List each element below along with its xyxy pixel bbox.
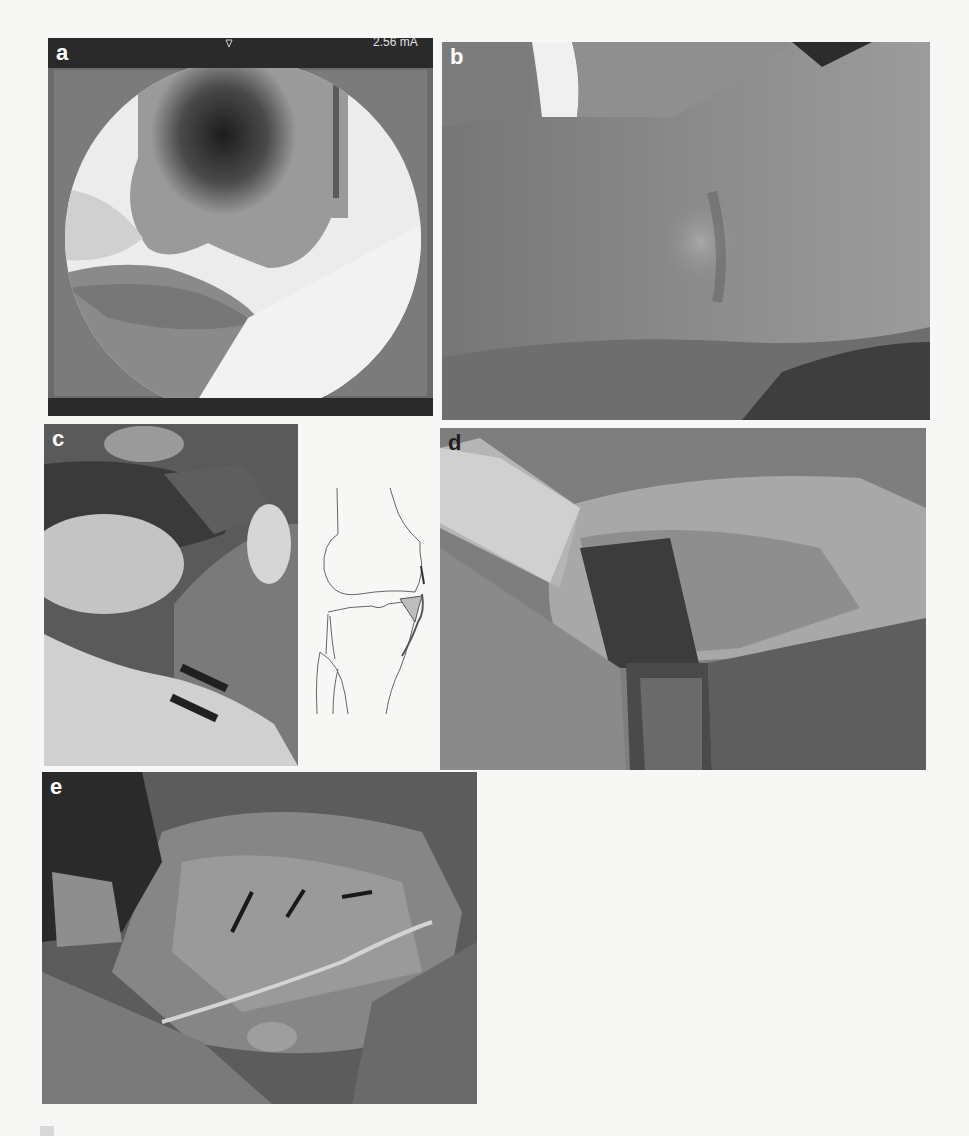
knee-anatomy-diagram <box>300 424 438 766</box>
panel-label-c: c <box>52 428 64 450</box>
panel-label-b: b <box>450 46 463 68</box>
caption-fragment <box>40 1126 54 1136</box>
intraop-photo <box>44 424 298 766</box>
panel-b-knee-photo: b <box>442 42 930 420</box>
fluoroscopy-readout: 2.56 mA <box>373 38 418 49</box>
panel-a-fluoroscopy: 2.56 mA a <box>48 38 433 416</box>
knee-line-drawing <box>300 424 438 766</box>
panel-label-a: a <box>56 42 68 64</box>
panel-e-sutured-field: e <box>42 772 477 1104</box>
panel-label-e: e <box>50 776 62 798</box>
surgical-exposure-photo <box>440 428 926 770</box>
panel-c-intraop-photo: c <box>44 424 298 766</box>
knee-clinical-photo <box>442 42 930 420</box>
sutured-field-photo <box>42 772 477 1104</box>
panel-d-surgical-exposure: d <box>440 428 926 770</box>
panel-label-d: d <box>448 432 461 454</box>
fluoroscopy-image: 2.56 mA <box>48 38 433 416</box>
